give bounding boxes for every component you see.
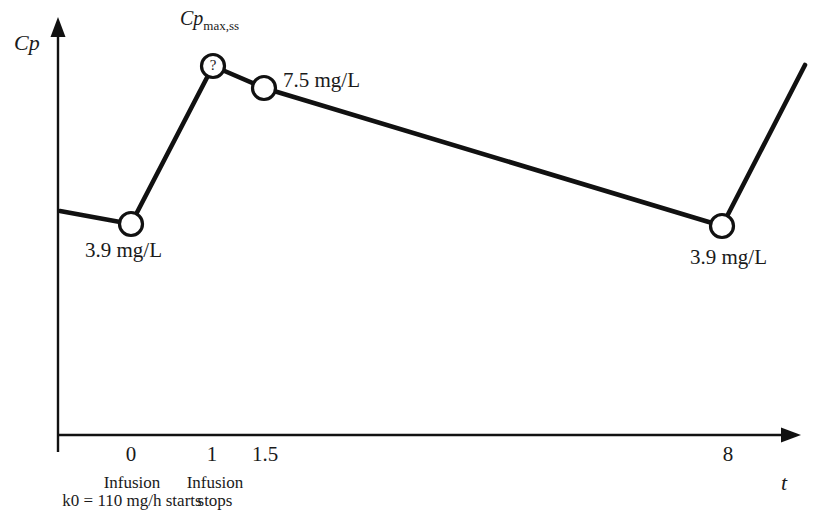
infusion-stop-line2: stops — [177, 492, 253, 510]
x-tick-8: 8 — [708, 443, 748, 465]
cpmax-ss-label: Cpmax,ss — [180, 8, 239, 33]
post-infusion-value: 7.5 mg/L — [283, 69, 360, 91]
x-tick-1-5: 1.5 — [245, 443, 285, 465]
marker-post-infusion — [253, 77, 276, 100]
concentration-curve — [60, 65, 805, 226]
y-axis — [51, 17, 66, 452]
cpmax-subscript: max,ss — [203, 18, 239, 33]
cpmax-prefix: Cp — [180, 7, 203, 29]
y-axis-label: Cp — [14, 31, 40, 54]
x-axis-label: t — [781, 471, 787, 494]
trough-right-value: 3.9 mg/L — [690, 246, 767, 268]
marker-trough-right — [711, 215, 734, 238]
marker-trough-left — [120, 213, 143, 236]
x-tick-0: 0 — [111, 443, 151, 465]
data-point-markers — [120, 55, 734, 238]
x-axis — [58, 428, 801, 443]
infusion-stop-line1: Infusion — [177, 474, 253, 492]
peak-question-mark: ? — [201, 57, 225, 74]
concentration-time-figure: Cp t Cpmax,ss ? 3.9 mg/L 7.5 mg/L 3.9 mg… — [0, 0, 821, 530]
x-tick-1: 1 — [192, 443, 232, 465]
trough-left-value: 3.9 mg/L — [85, 239, 162, 261]
infusion-stop-note: Infusion stops — [177, 474, 253, 510]
